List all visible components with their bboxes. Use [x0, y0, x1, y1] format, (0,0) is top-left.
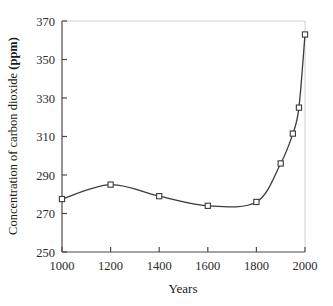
y-tick-label: 350: [36, 53, 55, 67]
y-tick-label: 310: [36, 130, 55, 144]
y-tick-label: 330: [36, 92, 55, 106]
x-tick-label: 1400: [147, 259, 172, 273]
y-tick-label: 370: [36, 15, 55, 29]
data-point-marker: [290, 131, 295, 136]
y-axis-title-plain: Concentration of carbon dioxide: [6, 70, 20, 235]
co2-line-chart: 250270290310330350370 100012001400160018…: [0, 0, 333, 306]
y-axis-title: Concentration of carbon dioxide (ppm): [6, 37, 20, 235]
y-tick-label: 270: [36, 207, 55, 221]
data-point-marker: [296, 105, 301, 110]
y-axis-title-units: (ppm): [6, 37, 20, 70]
data-point-marker: [108, 182, 113, 187]
data-point-marker: [205, 203, 210, 208]
y-tick-label: 290: [36, 169, 55, 183]
x-tick-label: 2000: [293, 259, 318, 273]
data-point-marker: [59, 196, 64, 201]
data-point-marker: [302, 32, 307, 37]
x-axis-ticks: 100012001400160018002000: [50, 247, 318, 273]
x-tick-label: 1200: [98, 259, 123, 273]
data-point-marker: [254, 199, 259, 204]
y-tick-label: 250: [36, 246, 55, 260]
axis-spines: [62, 21, 305, 252]
x-axis-title: Years: [168, 281, 197, 296]
data-point-markers: [59, 32, 307, 209]
chart-canvas: 250270290310330350370 100012001400160018…: [0, 0, 333, 306]
data-line-series-1: [62, 34, 305, 206]
data-point-marker: [278, 161, 283, 166]
data-point-marker: [157, 194, 162, 199]
x-tick-label: 1000: [50, 259, 75, 273]
x-tick-label: 1800: [244, 259, 269, 273]
x-tick-label: 1600: [195, 259, 220, 273]
